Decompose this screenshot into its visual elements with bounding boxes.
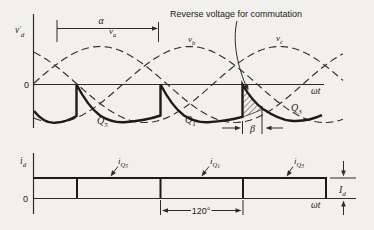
phase-label-vb: vb bbox=[188, 34, 196, 46]
alpha-label: α bbox=[98, 15, 104, 26]
phase-label-va: va bbox=[109, 26, 116, 38]
arrowhead bbox=[111, 170, 116, 176]
thyristor-label-q5: Q5 bbox=[97, 115, 108, 129]
waveform-figure: v′d 0 ωt α β Reverse voltage for commuta… bbox=[0, 0, 374, 230]
current-label-iq5: iQ5 bbox=[118, 156, 128, 169]
output-voltage-curve bbox=[34, 85, 322, 123]
arrowhead bbox=[236, 208, 242, 213]
arrowhead bbox=[202, 170, 207, 176]
phase-label-vc: vc bbox=[276, 33, 283, 45]
arrowhead bbox=[152, 26, 158, 31]
span-dimension: 120° bbox=[161, 200, 244, 216]
arrowhead bbox=[235, 126, 241, 131]
current-plot: id 0 ωt iQ5 iQ1 iQ3 120° Id bbox=[20, 153, 356, 216]
current-axis-label: id bbox=[20, 156, 27, 169]
current-origin-label: 0 bbox=[23, 194, 28, 204]
alpha-dimension: α bbox=[57, 15, 159, 42]
arrowhead bbox=[162, 208, 168, 213]
arrowhead bbox=[341, 201, 346, 207]
figure-canvas: v′d 0 ωt α β Reverse voltage for commuta… bbox=[0, 0, 374, 230]
amplitude-label: Id bbox=[338, 184, 346, 198]
arrowhead bbox=[341, 171, 346, 177]
beta-label: β bbox=[249, 123, 255, 134]
arrowhead bbox=[287, 170, 292, 176]
span-label: 120° bbox=[192, 206, 211, 216]
current-x-axis-label: ωt bbox=[311, 200, 321, 210]
commutation-annotation: Reverse voltage for commutation bbox=[170, 9, 302, 19]
voltage-x-axis-label: ωt bbox=[311, 86, 321, 96]
voltage-plot: v′d 0 ωt α β Reverse voltage for commuta… bbox=[15, 9, 343, 134]
thyristor-label-q1: Q1 bbox=[185, 114, 196, 128]
arrowhead bbox=[266, 126, 272, 131]
current-label-iq3: iQ3 bbox=[294, 156, 304, 169]
current-label-iq1: iQ1 bbox=[210, 156, 220, 169]
voltage-axis-label: v′d bbox=[15, 24, 25, 39]
amplitude-dimension: Id bbox=[330, 161, 356, 215]
annotation-leader-line bbox=[235, 21, 247, 88]
voltage-origin-label: 0 bbox=[24, 80, 29, 90]
